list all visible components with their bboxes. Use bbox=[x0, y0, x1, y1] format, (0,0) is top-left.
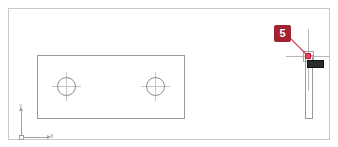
ucs-x-label: X bbox=[50, 133, 53, 139]
osnap-endpoint-marker-icon bbox=[305, 53, 311, 59]
step-callout-badge: 5 bbox=[274, 25, 291, 42]
drawing-canvas[interactable]: 5 Y X bbox=[8, 8, 330, 140]
cad-screenshot: 5 Y X bbox=[0, 0, 338, 147]
ucs-y-axis bbox=[21, 110, 22, 135]
ucs-y-label: Y bbox=[19, 103, 22, 109]
dynamic-input-tooltip bbox=[307, 60, 324, 68]
ucs-origin-square bbox=[19, 135, 24, 140]
right-hole-circle[interactable] bbox=[146, 77, 165, 96]
ucs-x-axis bbox=[24, 137, 48, 138]
ucs-icon: Y X bbox=[19, 107, 55, 143]
step-callout-number: 5 bbox=[279, 28, 285, 39]
left-hole-circle[interactable] bbox=[57, 77, 76, 96]
